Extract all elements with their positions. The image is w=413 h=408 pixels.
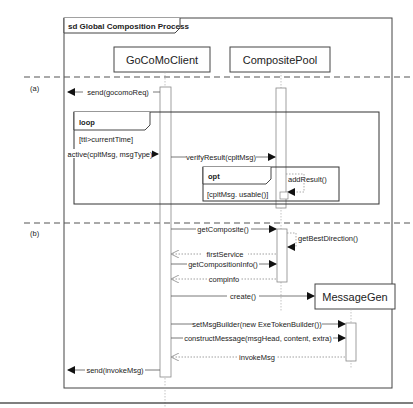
svg-text:getBestDirection(): getBestDirection() [298, 234, 359, 243]
sequence-diagram: sd Global Composition Process GoCoMoClie… [0, 0, 413, 408]
loop-operator: loop [79, 118, 95, 127]
message-constructmessage: constructMessage(msgHead, content, extra… [171, 333, 345, 343]
sd-frame: sd Global Composition Process [64, 18, 392, 388]
pool-activation-a [276, 88, 286, 208]
opt-fragment: opt [cpltMsg. usable()] [203, 167, 339, 201]
message-getcomposite: getComposite() [171, 224, 276, 234]
svg-text:setMsgBuilder(new ExeTokenBuil: setMsgBuilder(new ExeTokenBuilder()) [192, 320, 322, 329]
svg-text:constructMessage(msgHead, cont: constructMessage(msgHead, content, extra… [184, 334, 332, 343]
frame-title: sd Global Composition Process [68, 22, 189, 31]
lifeline-client: GoCoMoClient [114, 47, 210, 72]
lifeline-gen-label: MessageGen [322, 291, 387, 303]
message-verifyresult: verifyResult(cpltMsg) [171, 152, 275, 162]
svg-text:firstService: firstService [206, 250, 243, 259]
svg-text:active(cpltMsg, msgType): active(cpltMsg, msgType) [67, 150, 153, 159]
svg-text:send(invokeMsg): send(invokeMsg) [86, 366, 144, 375]
opt-guard: [cpltMsg. usable()] [207, 190, 268, 199]
svg-text:getCompositionInfo(): getCompositionInfo() [188, 260, 258, 269]
message-setmsgbuilder: setMsgBuilder(new ExeTokenBuilder()) [171, 319, 345, 329]
message-send-gocomoreq: send(gocomoReq) [68, 87, 160, 97]
lifeline-gen: MessageGen [315, 284, 395, 309]
message-active: active(cpltMsg, msgType) [67, 149, 158, 159]
lifeline-pool-label: CompositePool [243, 54, 318, 66]
lifeline-client-label: GoCoMoClient [126, 54, 198, 66]
message-invokemsg: invokeMsg [172, 352, 345, 362]
opt-operator: opt [208, 172, 220, 181]
svg-text:addResult(): addResult() [288, 175, 327, 184]
pool-activation-b [277, 229, 287, 282]
client-activation [160, 87, 171, 377]
svg-text:compinfo: compinfo [209, 275, 239, 284]
svg-text:invokeMsg: invokeMsg [239, 353, 275, 362]
message-getcompositioninfo: getCompositionInfo() [171, 259, 276, 269]
loop-guard: [ttl>currentTime] [79, 135, 133, 144]
section-label-b: (b) [30, 229, 40, 238]
gen-activation [346, 323, 356, 361]
svg-text:send(gocomoReq): send(gocomoReq) [87, 88, 149, 97]
message-compinfo: compinfo [172, 274, 276, 284]
message-firstservice: firstService [172, 249, 276, 259]
svg-text:verifyResult(cpltMsg): verifyResult(cpltMsg) [186, 153, 257, 162]
lifeline-pool: CompositePool [230, 47, 330, 72]
message-send-invokemsg: send(invokeMsg) [68, 365, 160, 375]
svg-text:create(): create() [230, 292, 256, 301]
message-addresult: addResult() [280, 174, 327, 199]
message-getbestdirection: getBestDirection() [287, 233, 359, 247]
svg-text:getComposite(): getComposite() [197, 225, 249, 234]
section-label-a: (a) [30, 84, 40, 93]
message-create: create() [171, 291, 314, 301]
